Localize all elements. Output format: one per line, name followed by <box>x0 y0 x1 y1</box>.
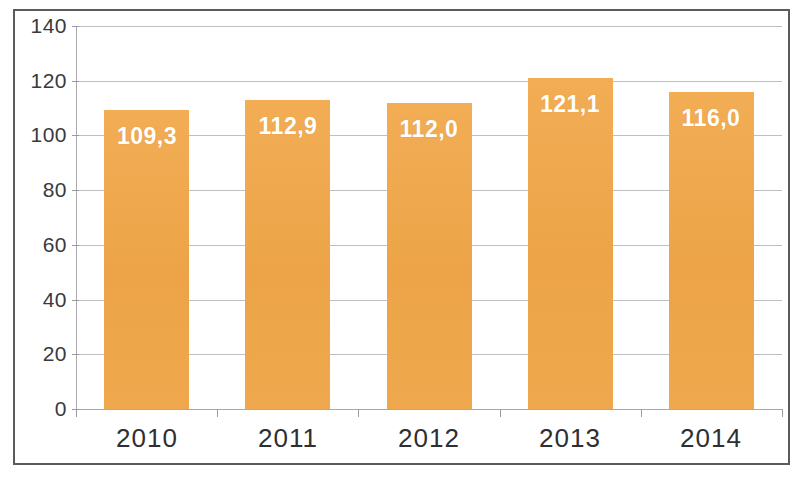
y-tick-mark-140 <box>72 26 79 27</box>
x-tick-mark <box>358 409 359 417</box>
bar-2012[interactable] <box>387 103 472 409</box>
x-axis-label-2012: 2012 <box>398 423 460 454</box>
y-axis-label: 20 <box>43 342 67 366</box>
gridline-140 <box>76 26 782 27</box>
x-tick-mark <box>782 409 783 417</box>
x-axis-label-2013: 2013 <box>539 423 601 454</box>
y-axis-label: 100 <box>30 123 67 147</box>
y-axis-label: 120 <box>30 69 67 93</box>
y-axis-label: 0 <box>55 397 67 421</box>
chart-frame: 109,3112,9112,0121,1116,0 02040608010012… <box>13 9 790 465</box>
y-axis-line <box>76 26 77 409</box>
y-axis-label: 60 <box>43 233 67 257</box>
bar-value-label-2011: 112,9 <box>259 113 318 140</box>
y-tick-mark-40 <box>72 300 79 301</box>
plot-area: 109,3112,9112,0121,1116,0 <box>76 26 782 409</box>
bar-value-label-2010: 109,3 <box>117 123 177 150</box>
x-axis-label-2011: 2011 <box>258 423 318 454</box>
bar-value-label-2013: 121,1 <box>540 91 600 118</box>
y-axis-label: 40 <box>43 288 67 312</box>
x-tick-mark <box>217 409 218 417</box>
y-axis-label: 80 <box>43 178 67 202</box>
y-tick-mark-120 <box>72 81 79 82</box>
gridline-120 <box>76 81 782 82</box>
x-tick-mark <box>641 409 642 417</box>
bar-value-label-2012: 112,0 <box>400 116 459 143</box>
bar-2010[interactable] <box>104 110 189 409</box>
bar-2011[interactable] <box>245 100 330 409</box>
gridline-0 <box>76 409 782 410</box>
y-axis-label: 140 <box>30 14 67 38</box>
y-tick-mark-100 <box>72 135 79 136</box>
bar-value-label-2014: 116,0 <box>682 105 741 132</box>
x-axis-label-2010: 2010 <box>116 423 178 454</box>
y-tick-mark-60 <box>72 245 79 246</box>
bar-2014[interactable] <box>669 92 754 409</box>
x-axis-label-2014: 2014 <box>680 423 742 454</box>
x-tick-mark <box>500 409 501 417</box>
x-tick-mark <box>76 409 77 417</box>
y-axis-tick-labels: 020406080100120140 <box>15 11 67 463</box>
bar-2013[interactable] <box>528 78 613 409</box>
y-tick-mark-20 <box>72 354 79 355</box>
y-tick-mark-80 <box>72 190 79 191</box>
